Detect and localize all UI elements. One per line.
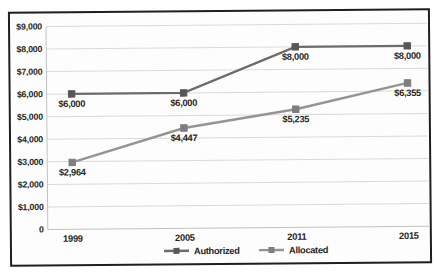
- series-marker: [181, 125, 187, 131]
- series-marker: [69, 159, 75, 165]
- series-marker: [68, 91, 74, 97]
- series-marker: [180, 90, 186, 96]
- y-tick-label: $3,000: [17, 157, 43, 167]
- y-tick-label: $6,000: [17, 89, 43, 99]
- series-marker: [292, 44, 298, 50]
- series-marker: [404, 80, 410, 86]
- data-label: $5,235: [282, 114, 309, 124]
- x-tick-label: 2005: [175, 233, 195, 243]
- data-label: $8,000: [282, 52, 309, 62]
- series-marker: [404, 43, 410, 49]
- x-tick-label: 2011: [287, 232, 306, 242]
- data-label: $6,000: [58, 99, 85, 109]
- legend-marker: [268, 247, 274, 253]
- y-tick-label: $2,000: [18, 179, 44, 189]
- data-label: $4,447: [171, 133, 198, 143]
- series-marker: [293, 106, 299, 112]
- legend-label: Authorized: [194, 246, 240, 256]
- data-label: $6,000: [170, 98, 197, 108]
- x-tick-label: 2015: [399, 231, 419, 241]
- y-tick-label: $5,000: [17, 112, 43, 122]
- y-tick-label: $8,000: [16, 44, 42, 54]
- data-label: $2,964: [59, 167, 87, 177]
- data-label: $6,355: [394, 88, 421, 98]
- y-tick-label: $9,000: [16, 21, 42, 31]
- y-tick-label: $1,000: [18, 202, 44, 212]
- y-tick-label: $7,000: [17, 67, 43, 77]
- legend-marker: [173, 248, 179, 254]
- data-label: $8,000: [394, 51, 421, 61]
- y-tick-label: $4,000: [17, 134, 43, 144]
- line-chart-figure: 0$1,000$2,000$3,000$4,000$5,000$6,000$7,…: [0, 0, 438, 274]
- legend-label: Allocated: [289, 245, 329, 255]
- x-tick-label: 1999: [63, 234, 83, 244]
- y-tick-label: 0: [39, 225, 44, 235]
